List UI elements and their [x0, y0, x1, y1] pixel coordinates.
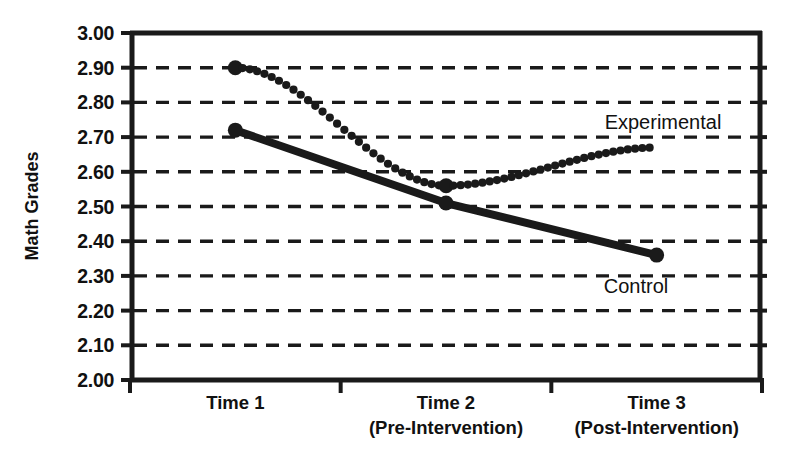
- y-axis-tick-label: 2.10: [77, 334, 114, 356]
- experimental-line-dot: [507, 173, 515, 181]
- experimental-line-dot: [587, 152, 595, 160]
- experimental-line-dot: [333, 120, 341, 128]
- y-axis-tick-label: 2.70: [77, 126, 114, 148]
- experimental-line-dot: [624, 145, 632, 153]
- control-data-point: [228, 123, 243, 138]
- chart-figure: 3.002.902.802.702.602.502.402.302.202.10…: [0, 0, 803, 461]
- experimental-line-dot: [260, 70, 268, 78]
- x-axis-category-sublabel: (Post-Intervention): [574, 417, 738, 438]
- y-axis-tick-label: 2.30: [77, 265, 114, 287]
- experimental-line-dot: [464, 180, 472, 188]
- experimental-line-dot: [646, 144, 654, 152]
- experimental-line-dot: [631, 145, 639, 153]
- experimental-line-dot: [493, 176, 501, 184]
- series-label-experimental: Experimental: [605, 111, 722, 133]
- experimental-line-dot: [326, 114, 334, 122]
- y-axis-tick-label: 2.90: [77, 57, 114, 79]
- experimental-line-dot: [457, 181, 465, 189]
- experimental-line-dot: [471, 180, 479, 188]
- experimental-line-dot: [558, 160, 566, 168]
- experimental-line-dot: [369, 149, 377, 157]
- experimental-line-dot: [246, 65, 254, 73]
- experimental-line-dot: [515, 171, 523, 179]
- y-axis-title: Math Grades: [22, 151, 42, 260]
- y-axis-tick-label: 2.40: [77, 230, 114, 252]
- experimental-line-dot: [239, 64, 247, 72]
- experimental-line-dot: [522, 169, 530, 177]
- experimental-line-dot: [638, 144, 646, 152]
- x-axis-category-sublabel: (Pre-Intervention): [369, 417, 523, 438]
- experimental-line-dot: [566, 158, 574, 166]
- line-chart: 3.002.902.802.702.602.502.402.302.202.10…: [0, 0, 803, 461]
- experimental-line-dot: [609, 148, 617, 156]
- experimental-line-dot: [362, 144, 370, 152]
- experimental-line-dot: [406, 172, 414, 180]
- experimental-line-dot: [348, 132, 356, 140]
- experimental-line-dot: [529, 167, 537, 175]
- y-axis-tick-label: 2.50: [77, 196, 114, 218]
- experimental-line-dot: [573, 156, 581, 164]
- y-axis-tick-label: 2.60: [77, 161, 114, 183]
- y-axis-tick-label: 2.00: [77, 369, 114, 391]
- experimental-line-dot: [449, 181, 457, 189]
- experimental-line-dot: [311, 102, 319, 110]
- experimental-line-dot: [275, 77, 283, 85]
- experimental-line-dot: [536, 165, 544, 173]
- y-axis-tick-label: 2.80: [77, 91, 114, 113]
- experimental-line-dot: [595, 150, 603, 158]
- experimental-line-dot: [377, 155, 385, 163]
- experimental-line-dot: [384, 160, 392, 168]
- experimental-line-dot: [391, 164, 399, 172]
- experimental-line-dot: [551, 161, 559, 169]
- y-axis-tick-labels: 3.002.902.802.702.602.502.402.302.202.10…: [77, 22, 114, 391]
- experimental-line-dot: [253, 67, 261, 75]
- experimental-line-dot: [580, 154, 588, 162]
- experimental-line-dot: [297, 91, 305, 99]
- experimental-line-dot: [500, 174, 508, 182]
- experimental-line-dot: [602, 149, 610, 157]
- experimental-line-dot: [544, 163, 552, 171]
- experimental-line-dot: [478, 179, 486, 187]
- experimental-line-dot: [304, 96, 312, 104]
- x-axis-category-label: Time 2: [417, 392, 475, 413]
- experimental-line-dot: [420, 178, 428, 186]
- control-data-point: [649, 248, 664, 263]
- experimental-line-dot: [616, 146, 624, 154]
- x-axis-category-label: Time 3: [628, 392, 686, 413]
- experimental-line-dot: [427, 180, 435, 188]
- experimental-line-dot: [355, 138, 363, 146]
- x-axis-category-label: Time 1: [206, 392, 264, 413]
- x-axis-category-labels: Time 1Time 2(Pre-Intervention)Time 3(Pos…: [206, 392, 739, 438]
- experimental-line-dot: [289, 86, 297, 94]
- control-data-point: [439, 196, 454, 211]
- series-label-control: Control: [604, 275, 668, 297]
- experimental-line-dot: [340, 126, 348, 134]
- experimental-line-dot: [318, 108, 326, 116]
- y-axis-tick-label: 2.20: [77, 300, 114, 322]
- y-axis-tick-label: 3.00: [77, 22, 114, 44]
- experimental-line-dot: [413, 176, 421, 184]
- experimental-line-dot: [486, 177, 494, 185]
- experimental-line-dot: [268, 73, 276, 81]
- experimental-line-dot: [398, 169, 406, 177]
- experimental-line-dot: [282, 81, 290, 89]
